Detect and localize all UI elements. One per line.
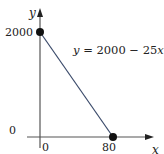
y-tick-2000: 2000 — [5, 26, 33, 39]
x-axis-label: x — [152, 143, 159, 154]
point-y-intercept — [36, 28, 44, 36]
equation-label: y = 2000 − 25x — [72, 43, 164, 57]
equation-body: = 2000 − 25 — [80, 43, 158, 57]
x-tick-80: 80 — [102, 141, 116, 154]
y-axis-arrow-icon — [37, 8, 43, 17]
x-tick-0: 0 — [42, 141, 49, 154]
line-chart: y x 2000 0 0 80 y = 2000 − 25x — [0, 0, 164, 154]
point-x-intercept — [109, 133, 117, 141]
equation-x: x — [157, 43, 164, 57]
x-axis-arrow-icon — [145, 134, 154, 140]
y-axis-label: y — [28, 6, 36, 20]
y-tick-0: 0 — [9, 124, 16, 137]
